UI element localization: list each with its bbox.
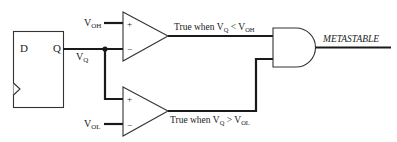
q-output-label: Q <box>53 42 61 54</box>
d-flipflop: D Q <box>14 32 64 108</box>
circuit-diagram: D Q VQ VOH VOL + − + − True when VQ < VO… <box>0 0 397 142</box>
plus-input-label: + <box>127 94 132 104</box>
low-compare-output-wire <box>168 59 273 111</box>
plus-input-label: + <box>127 19 132 29</box>
d-input-label: D <box>20 42 28 54</box>
vol-label: VOL <box>84 118 101 131</box>
metastable-label: METASTABLE <box>322 34 379 44</box>
comparator-low: + − <box>123 87 168 136</box>
comparator-high: + − <box>123 12 168 61</box>
voh-label: VOH <box>84 17 101 30</box>
low-compare-label: True when VQ > VOL <box>170 115 250 126</box>
minus-input-label: − <box>127 44 132 54</box>
high-compare-label: True when VQ < VOH <box>174 22 255 33</box>
and-gate-icon <box>273 28 316 67</box>
vq-branch-wire <box>105 49 123 99</box>
minus-input-label: − <box>127 120 132 130</box>
vq-label: VQ <box>76 51 88 64</box>
